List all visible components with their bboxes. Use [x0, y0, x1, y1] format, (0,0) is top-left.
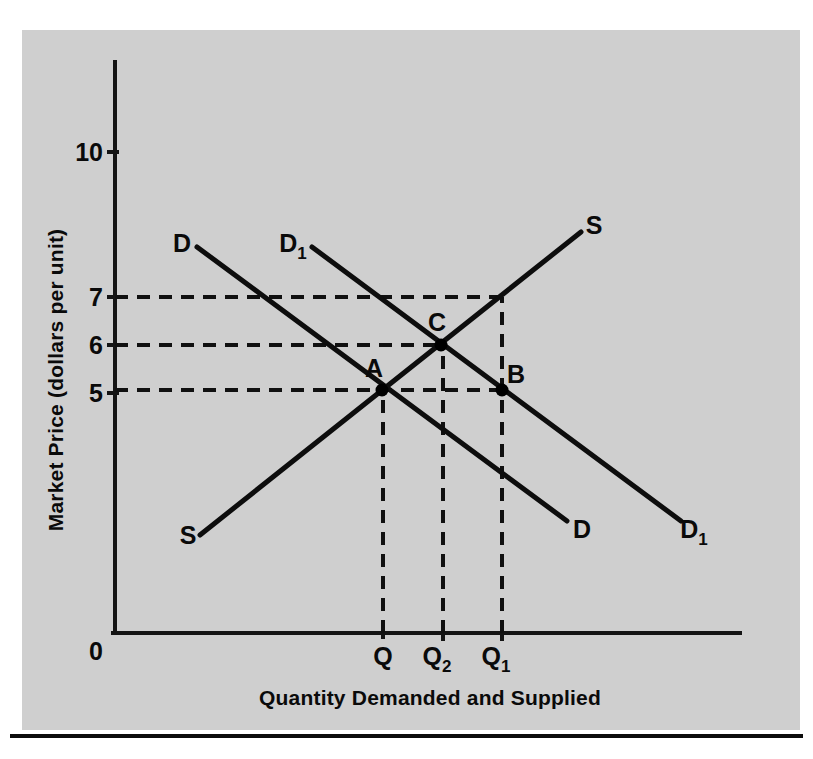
x-tick-label-q1-base: Q — [482, 642, 501, 670]
point-marker-a — [376, 384, 389, 397]
point-marker-c — [435, 339, 448, 352]
curve-label-demand-bottom: D — [573, 515, 591, 543]
y-axis-title: Market Price (dollars per unit) — [44, 229, 67, 532]
x-tick-label-q1: Q1 — [482, 642, 511, 676]
point-label-b: B — [507, 360, 525, 388]
origin-label: 0 — [89, 637, 103, 665]
curve-label-demand-shifted-top: D1 — [279, 229, 307, 263]
x-tick-label-q2-base: Q — [423, 642, 442, 670]
curve-label-supply-top: S — [586, 211, 603, 239]
x-tick-label-q2-sub: 2 — [442, 657, 451, 676]
curve-label-demand-shifted-bottom: D1 — [680, 515, 708, 549]
y-tick-label-5: 5 — [89, 379, 103, 407]
curve-label-demand-shifted-bottom-base: D — [680, 515, 698, 543]
x-tick-label-q: Q — [373, 642, 392, 670]
demand-shifted-curve — [312, 247, 681, 521]
curve-label-demand-shifted-bottom-sub: 1 — [698, 530, 707, 549]
point-label-a: A — [365, 354, 383, 382]
point-label-c: C — [428, 308, 446, 336]
y-tick-label-6: 6 — [89, 331, 103, 359]
curve-label-demand-shifted-top-sub: 1 — [297, 244, 306, 263]
supply-demand-chart: 10 7 6 5 0 Q Q2 Q1 A B C D D1 S S D D1 — [0, 0, 813, 759]
curves-group — [197, 232, 681, 535]
axis-group — [113, 62, 740, 633]
figure-page: 10 7 6 5 0 Q Q2 Q1 A B C D D1 S S D D1 — [0, 0, 813, 759]
y-tick-label-7: 7 — [89, 283, 103, 311]
y-tick-label-10: 10 — [75, 138, 103, 166]
x-tick-label-q1-sub: 1 — [501, 657, 510, 676]
curve-label-demand-top: D — [173, 229, 191, 257]
curve-label-demand-shifted-top-base: D — [279, 229, 297, 257]
x-axis-title: Quantity Demanded and Supplied — [259, 686, 601, 709]
x-tick-label-q2: Q2 — [423, 642, 452, 676]
x-tick-label-q-base: Q — [373, 642, 392, 670]
curve-label-supply-bottom: S — [180, 521, 197, 549]
